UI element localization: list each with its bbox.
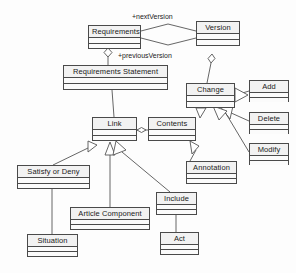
- class-name-change: Change: [187, 84, 234, 96]
- class-name-add: Add: [250, 81, 288, 93]
- class-operations-act: [161, 250, 198, 254]
- class-operations-requirements: [89, 44, 140, 49]
- triangle-include: [113, 141, 126, 155]
- class-box-link[interactable]: Link: [92, 117, 137, 141]
- edge-reqstmt-to-link: [112, 90, 114, 117]
- edge-include-to-link: [122, 152, 170, 192]
- triangle-contents-change: [196, 108, 206, 118]
- class-box-contents[interactable]: Contents: [148, 117, 196, 141]
- class-name-link: Link: [93, 118, 136, 130]
- class-box-delete[interactable]: Delete: [249, 112, 289, 134]
- class-operations-include: [157, 210, 196, 214]
- triangle-satisfy-or-deny: [88, 141, 97, 152]
- class-box-modify[interactable]: Modify: [249, 143, 289, 165]
- class-name-include: Include: [157, 193, 196, 205]
- class-box-add[interactable]: Add: [249, 80, 289, 102]
- class-operations-delete: [250, 130, 288, 134]
- class-name-delete: Delete: [250, 113, 288, 125]
- class-operations-change: [187, 102, 234, 107]
- class-box-article-component[interactable]: Article Component: [70, 207, 150, 230]
- class-box-act[interactable]: Act: [160, 232, 199, 255]
- class-box-requirements[interactable]: Requirements: [88, 25, 141, 49]
- class-box-satisfy-or-deny[interactable]: Satisfy or Deny: [17, 165, 90, 189]
- class-name-act: Act: [161, 233, 198, 245]
- class-operations-version: [197, 40, 239, 45]
- class-operations-add: [250, 98, 288, 102]
- edge-next-version: [141, 24, 196, 31]
- triangle-add: [235, 88, 248, 102]
- class-name-contents: Contents: [149, 118, 195, 130]
- class-operations-satisfy-or-deny: [18, 184, 89, 189]
- class-operations-modify: [250, 161, 288, 165]
- edge-satisfyordeny-to-link: [53, 148, 88, 165]
- class-box-situation[interactable]: Situation: [27, 234, 78, 257]
- class-operations-requirements-statement: [64, 84, 167, 89]
- class-name-satisfy-or-deny: Satisfy or Deny: [18, 166, 89, 178]
- edge-label-next-version: +nextVersion: [132, 12, 173, 21]
- edge-version-to-change: [207, 63, 211, 83]
- class-operations-link: [93, 136, 136, 141]
- class-box-include[interactable]: Include: [156, 192, 197, 215]
- class-box-change[interactable]: Change: [186, 83, 235, 108]
- class-name-annotation: Annotation: [187, 162, 236, 174]
- edge-version-lower: [141, 38, 196, 45]
- class-operations-situation: [28, 252, 77, 256]
- edge-modify-to-change: [225, 112, 249, 152]
- diamond-requirements-statement: [104, 48, 112, 57]
- class-operations-article-component: [71, 225, 149, 229]
- class-box-requirements-statement[interactable]: Requirements Statement: [63, 65, 168, 90]
- edge-label-previous-version: +previousVersion: [118, 51, 172, 60]
- diamond-link-contents: [137, 128, 146, 133]
- class-name-modify: Modify: [250, 144, 288, 156]
- class-operations-contents: [149, 136, 195, 141]
- class-box-version[interactable]: Version: [196, 21, 240, 46]
- diamond-change: [208, 54, 215, 63]
- class-name-article-component: Article Component: [71, 208, 149, 220]
- edge-delete-to-change: [229, 112, 249, 121]
- class-name-version: Version: [197, 22, 239, 34]
- class-name-requirements: Requirements: [89, 26, 140, 38]
- class-name-situation: Situation: [28, 235, 77, 247]
- class-box-annotation[interactable]: Annotation: [186, 161, 237, 184]
- class-name-requirements-statement: Requirements Statement: [64, 66, 167, 78]
- class-operations-annotation: [187, 179, 236, 183]
- uml-class-diagram: Requirements Version Requirements Statem…: [0, 0, 296, 273]
